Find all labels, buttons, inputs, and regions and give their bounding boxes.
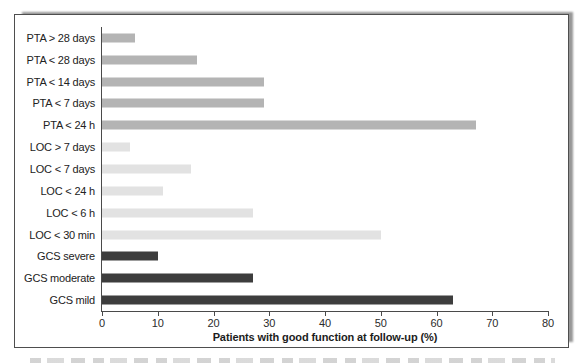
bar-row: GCS severe [102, 245, 548, 267]
bar-row: PTA < 14 days [102, 71, 548, 93]
x-tick-label: 60 [430, 317, 442, 329]
bar [102, 33, 135, 42]
x-tick-mark [492, 311, 493, 316]
bar-row: PTA < 28 days [102, 49, 548, 71]
bar [102, 208, 253, 217]
x-tick-label: 50 [375, 317, 387, 329]
category-label: GCS moderate [24, 272, 95, 284]
bar [102, 77, 264, 86]
cropped-caption-artifact [30, 358, 555, 363]
x-tick-mark [437, 311, 438, 316]
x-tick-label: 20 [207, 317, 219, 329]
category-label: PTA < 14 days [27, 76, 95, 88]
bar-row: LOC < 24 h [102, 180, 548, 202]
bar [102, 143, 130, 152]
bar-row: LOC < 30 min [102, 224, 548, 246]
bar-row: LOC < 6 h [102, 202, 548, 224]
x-tick-label: 70 [486, 317, 498, 329]
bar-row: PTA < 7 days [102, 93, 548, 115]
x-tick-label: 30 [263, 317, 275, 329]
bar [102, 121, 476, 130]
x-tick-mark [158, 311, 159, 316]
x-tick-mark [381, 311, 382, 316]
scanned-figure-page: PTA > 28 daysPTA < 28 daysPTA < 14 daysP… [0, 0, 581, 363]
bar [102, 99, 264, 108]
category-label: GCS severe [37, 250, 95, 262]
bar [102, 230, 381, 239]
category-label: PTA < 7 days [32, 97, 95, 109]
category-label: LOC < 6 h [46, 207, 95, 219]
x-axis-label: Patients with good function at follow-up… [213, 331, 438, 343]
category-label: PTA > 28 days [27, 32, 95, 44]
category-label: PTA < 28 days [27, 54, 95, 66]
x-tick-mark [269, 311, 270, 316]
bar-row: PTA > 28 days [102, 27, 548, 49]
chart-frame: PTA > 28 daysPTA < 28 daysPTA < 14 daysP… [14, 14, 569, 348]
bar-row: LOC > 7 days [102, 136, 548, 158]
category-label: PTA < 24 h [43, 119, 95, 131]
category-label: LOC > 7 days [30, 141, 95, 153]
x-tick-label: 10 [152, 317, 164, 329]
category-label: GCS mild [50, 294, 95, 306]
bar-row: GCS mild [102, 289, 548, 311]
x-tick-label: 80 [542, 317, 554, 329]
bar-row: GCS moderate [102, 267, 548, 289]
bar [102, 164, 191, 173]
plot-area: PTA > 28 daysPTA < 28 daysPTA < 14 daysP… [101, 27, 548, 312]
bar [102, 296, 453, 305]
category-label: LOC < 24 h [40, 185, 95, 197]
category-label: LOC < 7 days [30, 163, 95, 175]
bar [102, 274, 253, 283]
bar [102, 186, 163, 195]
x-tick-mark [325, 311, 326, 316]
x-tick-label: 0 [99, 317, 105, 329]
bar [102, 252, 158, 261]
bar-row: LOC < 7 days [102, 158, 548, 180]
category-label: LOC < 30 min [29, 229, 95, 241]
x-tick-label: 40 [319, 317, 331, 329]
x-tick-mark [548, 311, 549, 316]
bar [102, 55, 197, 64]
x-tick-mark [214, 311, 215, 316]
bar-row: PTA < 24 h [102, 114, 548, 136]
x-tick-mark [102, 311, 103, 316]
